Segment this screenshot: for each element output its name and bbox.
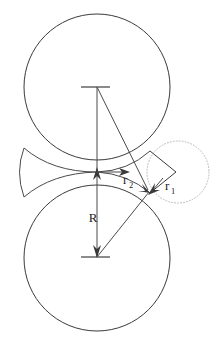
right-concave-arc-upper	[97, 151, 150, 172]
label-r1-subscript: 1	[171, 186, 175, 196]
lower-center-diagonal	[97, 192, 149, 257]
dotted-small-circle	[147, 141, 209, 203]
geometry-figure: R r 1 r 2	[0, 0, 219, 339]
left-concave-arc-upper	[24, 148, 97, 172]
label-R: R	[89, 210, 98, 225]
figure-canvas: R r 1 r 2	[0, 0, 219, 339]
left-concave-arc-outer	[20, 148, 25, 197]
label-r1-base: r	[165, 178, 170, 193]
label-r2-subscript: 2	[129, 180, 133, 190]
label-r2-base: r	[123, 172, 128, 187]
left-concave-arc-lower	[24, 172, 97, 197]
